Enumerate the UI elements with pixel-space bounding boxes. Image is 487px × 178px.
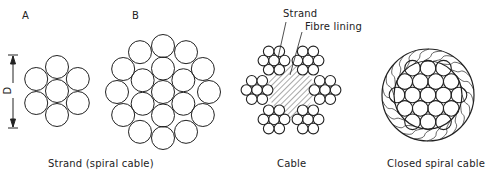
strand-b-section: [106, 35, 221, 150]
strand-caption: Strand (spiral cable): [48, 158, 154, 169]
dimension-label: D: [2, 87, 13, 95]
strand-a-label: A: [22, 10, 29, 21]
callout-fibre-lining: Fibre lining: [305, 21, 362, 32]
closed-spiral-section: [382, 49, 474, 141]
closed-spiral-caption: Closed spiral cable: [387, 158, 485, 169]
strand-b-label: B: [132, 10, 139, 21]
rope-cross-sections-diagram: [0, 0, 487, 178]
cable-caption: Cable: [277, 158, 306, 169]
strand-a-section: [25, 56, 90, 127]
callout-strand: Strand: [283, 8, 317, 19]
